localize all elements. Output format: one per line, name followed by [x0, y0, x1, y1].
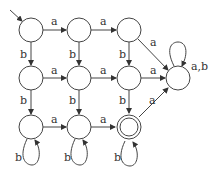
- state-q11: [67, 66, 91, 90]
- label-q00-q01: a: [51, 15, 58, 28]
- label-loop-q21: b: [64, 151, 71, 164]
- label-q01-q02: a: [100, 15, 107, 28]
- state-q01: [67, 18, 91, 42]
- loop-q20: [23, 139, 39, 165]
- start-arrow: [10, 10, 22, 21]
- loop-sink: [170, 42, 186, 66]
- state-q10: [19, 66, 43, 90]
- label-q12-q22: b: [119, 94, 126, 107]
- label-q20-q21: a: [51, 113, 58, 126]
- state-q02: [117, 18, 141, 42]
- loop-q22: [121, 141, 137, 166]
- label-q02-q12: b: [119, 48, 126, 61]
- state-q22-accepting: [117, 115, 141, 139]
- state-q00: [19, 18, 43, 42]
- label-q10-q20: b: [20, 94, 27, 107]
- automaton-diagram: a a a b b b a a a b b b a a a b b b a,b: [0, 0, 218, 173]
- label-q11-q12: a: [100, 64, 107, 77]
- state-q12: [117, 66, 141, 90]
- label-q12-sink: a: [150, 64, 157, 77]
- state-sink: [166, 66, 190, 90]
- label-q02-sink: a: [150, 36, 157, 49]
- label-loop-q22: b: [114, 151, 121, 164]
- loop-q21: [71, 139, 87, 165]
- label-q21-q22: a: [100, 113, 107, 126]
- label-q01-q11: b: [69, 48, 76, 61]
- label-q00-q10: b: [20, 48, 27, 61]
- state-q21: [67, 115, 91, 139]
- state-q20: [19, 115, 43, 139]
- automaton-canvas: a a a b b b a a a b b b a a a b b b a,b: [0, 0, 218, 173]
- label-q10-q11: a: [51, 64, 58, 77]
- label-loop-sink: a,b: [191, 60, 208, 73]
- label-q22-sink: a: [149, 94, 156, 107]
- label-loop-q20: b: [15, 151, 22, 164]
- label-q11-q21: b: [69, 94, 76, 107]
